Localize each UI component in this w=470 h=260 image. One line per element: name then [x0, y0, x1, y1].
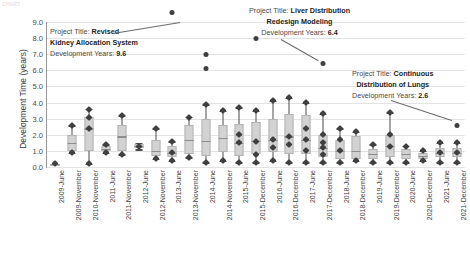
x-tick-label: 2009-November: [75, 170, 82, 220]
x-tick-label: 2021-December: [460, 170, 467, 220]
outlier-point: [170, 10, 175, 15]
x-tick-label: 2019-June: [376, 170, 383, 203]
y-tick-label: 4.0: [17, 99, 43, 108]
chart-canvas: CHART Development Time (years) 0.01.02.0…: [0, 0, 470, 260]
x-tick-label: 2017-December: [326, 170, 333, 220]
annotation-years: Development Years: 6.4: [249, 27, 350, 38]
x-tick-label: 2010-November: [92, 170, 99, 220]
x-tick-label: 2011-June: [109, 170, 116, 203]
x-tick-label: 2015-December: [259, 170, 266, 220]
x-tick-label: 2013-November: [192, 170, 199, 220]
x-tick-label: 2020-December: [426, 170, 433, 220]
y-tick-label: 8.0: [17, 34, 43, 43]
x-tick-label: 2016-June: [276, 170, 283, 203]
x-tick-labels: 2009-June2009-November2010-November2011-…: [47, 170, 465, 258]
x-tick-label: 2018-December: [359, 170, 366, 220]
annotation-lungs: Project Title: ContinuousDistribution of…: [352, 68, 433, 101]
y-tick-label: 0.0: [17, 163, 43, 172]
y-tick-label: 1.0: [17, 147, 43, 156]
annotation-years: Development Years: 9.6: [50, 48, 138, 59]
annotation-title-line2: Kidney Allocation System: [50, 37, 138, 48]
x-tick-label: 2014-November: [226, 170, 233, 220]
x-tick-label: 2014-June: [209, 170, 216, 203]
x-tick-label: 2021-June: [443, 170, 450, 203]
y-tick-label: 7.0: [17, 50, 43, 59]
annotation-title-line1: Project Title: Continuous: [352, 68, 433, 79]
annotation-title-line2: Distribution of Lungs: [352, 79, 433, 90]
x-tick-label: 2012-June: [142, 170, 149, 203]
y-tick-label: 5.0: [17, 82, 43, 91]
x-tick-label: 2019-December: [393, 170, 400, 220]
y-tick-label: 2.0: [17, 131, 43, 140]
y-tick-label: 3.0: [17, 115, 43, 124]
x-tick-label: 2016-December: [292, 170, 299, 220]
x-tick-label: 2011-November: [125, 170, 132, 220]
x-tick-label: 2009-June: [58, 170, 65, 203]
annotation-title-line1: Project Title: Liver Distribution: [249, 5, 350, 16]
annotation-title-line2: Redesign Modeling: [249, 16, 350, 27]
x-tick-label: 2015-June: [242, 170, 249, 203]
x-tick-label: 2013-June: [175, 170, 182, 203]
x-tick-label: 2020-June: [409, 170, 416, 203]
y-tick-label: 9.0: [17, 18, 43, 27]
x-tick-label: 2012-November: [159, 170, 166, 220]
x-tick-label: 2017-June: [309, 170, 316, 203]
gridline: [47, 167, 465, 168]
corner-ghost-text: CHART: [2, 1, 21, 7]
x-tick-label: 2018-June: [343, 170, 350, 203]
y-tick-label: 6.0: [17, 66, 43, 75]
annotation-years: Development Years: 2.6: [352, 90, 433, 101]
annotation-liver: Project Title: Liver DistributionRedesig…: [249, 5, 350, 38]
